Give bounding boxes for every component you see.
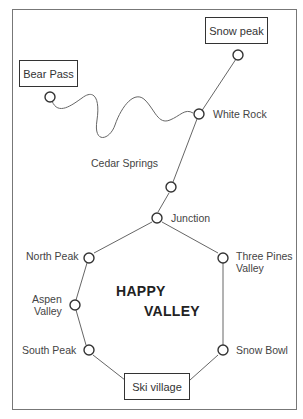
south-peak-marker	[84, 345, 94, 355]
three-pines-label-2: Valley	[236, 262, 264, 275]
junction-marker	[152, 213, 162, 223]
map-title-line2: VALLEY	[144, 303, 200, 319]
cedar-springs-label: Cedar Springs	[91, 157, 158, 170]
ski-village-label: Ski village	[132, 381, 182, 393]
aspen-valley-marker	[70, 300, 80, 310]
bear-pass-box: Bear Pass	[19, 60, 78, 87]
snow-bowl-label: Snow Bowl	[236, 344, 288, 357]
white-rock-marker	[194, 109, 204, 119]
south-peak-label: South Peak	[22, 344, 76, 357]
map-title-line1: HAPPY	[116, 283, 166, 299]
snow-peak-box: Snow peak	[205, 17, 268, 44]
north-peak-label: North Peak	[26, 250, 79, 263]
junction-label: Junction	[171, 212, 210, 225]
bear-pass-label: Bear Pass	[23, 68, 74, 80]
snow-peak-marker	[233, 50, 243, 60]
snow-bowl-marker	[218, 345, 228, 355]
aspen-label-2: Valley	[34, 305, 62, 318]
bear-pass-marker	[45, 92, 55, 102]
cedar-springs-marker	[166, 182, 176, 192]
three-pines-marker	[218, 253, 228, 263]
north-peak-marker	[84, 253, 94, 263]
snow-peak-label: Snow peak	[209, 25, 263, 37]
white-rock-label: White Rock	[213, 108, 267, 121]
ski-village-box: Ski village	[124, 373, 190, 400]
